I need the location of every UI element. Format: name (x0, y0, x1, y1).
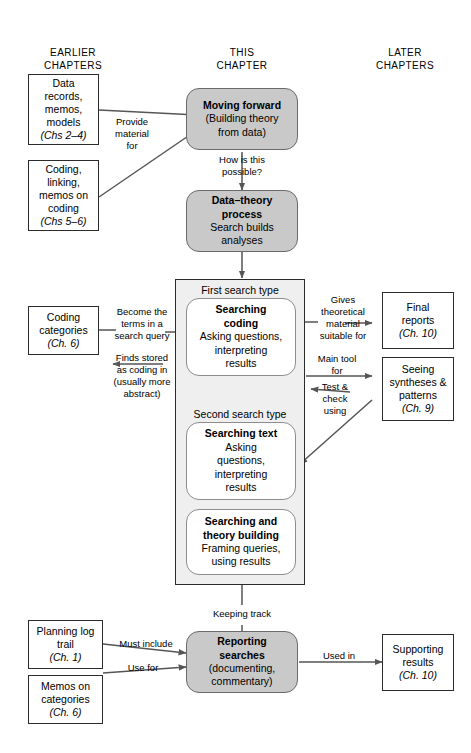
node-seeing-syntheses-chapter: (Ch. 9) (389, 402, 446, 415)
node-moving-forward-title: Moving forward (203, 99, 281, 112)
node-searching-theory-body: Framing queries, using results (202, 542, 281, 569)
column-header-earlier-chapters: EARLIER CHAPTERS (8, 46, 138, 72)
node-final-reports-chapter: (Ch. 10) (399, 327, 437, 340)
panel-label-second-search-type: Second search type (176, 408, 304, 421)
node-supporting-results[interactable]: Supporting results (Ch. 10) (382, 634, 454, 691)
node-memos-on-categories[interactable]: Memos on categories (Ch. 6) (28, 675, 103, 724)
node-planning-log-trail[interactable]: Planning log trail (Ch. 1) (28, 620, 103, 669)
node-planning-log-line-1: trail (37, 638, 95, 651)
node-coding-linking-line-0: Coding, (39, 163, 88, 176)
node-searching-text-body: Asking questions, interpreting results (215, 441, 268, 495)
node-final-reports[interactable]: Final reports (Ch. 10) (382, 292, 454, 349)
node-coding-categories-line-1: categories (39, 324, 87, 337)
node-searching-theory-building[interactable]: Searching and theory building Framing qu… (186, 509, 296, 575)
node-searching-theory-title: Searching and theory building (203, 515, 279, 542)
node-data-theory-title: Data–theory process (212, 194, 273, 221)
node-moving-forward[interactable]: Moving forward (Building theory from dat… (186, 88, 298, 150)
node-supporting-results-line-1: results (393, 656, 444, 669)
node-final-reports-line-0: Final (399, 301, 437, 314)
node-coding-linking-chapter: (Chs 5–6) (39, 215, 88, 228)
panel-label-first-search-type: First search type (176, 284, 304, 297)
node-coding-categories-chapter: (Ch. 6) (39, 337, 87, 350)
node-data-records-line-3: models (40, 116, 86, 129)
node-seeing-syntheses-line-1: syntheses & (389, 376, 446, 389)
node-coding-categories-line-0: Coding (39, 311, 87, 324)
edge-label-use-for: Use for (112, 662, 174, 674)
column-header-this-chapter: THIS CHAPTER (177, 46, 307, 72)
node-searching-text[interactable]: Searching text Asking questions, interpr… (186, 422, 296, 500)
node-memos-categories-line-0: Memos on (41, 680, 90, 693)
node-planning-log-chapter: (Ch. 1) (37, 651, 95, 664)
node-reporting-searches-body: (documenting, commentary) (209, 662, 276, 689)
edge-label-keeping-track: Keeping track (196, 608, 288, 620)
node-data-records-line-0: Data (40, 77, 86, 90)
node-planning-log-line-0: Planning log (37, 625, 95, 638)
edge-label-finds-stored: Finds stored as coding in (usually more … (106, 352, 178, 400)
node-coding-linking[interactable]: Coding, linking, memos on coding (Chs 5–… (28, 160, 99, 231)
edge-label-gives-theoretical-material: Gives theoretical material suitable for (308, 294, 378, 342)
column-header-later-chapters: LATER CHAPTERS (340, 46, 470, 72)
edge-label-must-include: Must include (110, 638, 182, 650)
edge-label-become-the-terms: Become the terms in a search query (106, 306, 178, 342)
node-data-theory-process[interactable]: Data–theory process Search builds analys… (186, 190, 298, 252)
node-data-records-chapter: (Chs 2–4) (40, 129, 86, 142)
node-searching-text-title: Searching text (205, 427, 277, 440)
edge-data-records-to-moving-forward (99, 110, 197, 115)
edge-label-used-in: Used in (308, 650, 370, 662)
node-data-records-line-2: memos, (40, 103, 86, 116)
node-data-records-line-1: records, (40, 90, 86, 103)
diagram-canvas: EARLIER CHAPTERS THIS CHAPTER LATER CHAP… (0, 0, 471, 753)
node-coding-linking-line-2: memos on (39, 189, 88, 202)
node-coding-linking-line-3: coding (39, 202, 88, 215)
node-final-reports-line-1: reports (399, 314, 437, 327)
node-data-theory-body: Search builds analyses (210, 221, 274, 248)
node-searching-coding-body: Asking questions, interpreting results (200, 330, 282, 370)
node-memos-categories-chapter: (Ch. 6) (41, 706, 90, 719)
edge-label-test-check-using: Test & check using (313, 381, 357, 417)
node-reporting-searches[interactable]: Reporting searches (documenting, comment… (186, 631, 298, 693)
node-seeing-syntheses-line-2: patterns (389, 389, 446, 402)
node-data-records[interactable]: Data records, memos, models (Chs 2–4) (28, 74, 99, 145)
edge-label-provide-material: Provide material for (103, 116, 161, 152)
edge-label-how-is-this-possible: How is this possible? (205, 154, 279, 178)
node-seeing-syntheses-line-0: Seeing (389, 363, 446, 376)
node-moving-forward-body: (Building theory from data) (206, 112, 279, 139)
node-supporting-results-chapter: (Ch. 10) (393, 669, 444, 682)
node-reporting-searches-title: Reporting searches (217, 635, 267, 662)
node-searching-coding[interactable]: Searching coding Asking questions, inter… (186, 298, 296, 376)
node-coding-categories[interactable]: Coding categories (Ch. 6) (28, 306, 99, 355)
node-seeing-syntheses-patterns[interactable]: Seeing syntheses & patterns (Ch. 9) (382, 357, 454, 421)
node-memos-categories-line-1: categories (41, 693, 90, 706)
node-searching-coding-title: Searching coding (216, 303, 267, 330)
node-supporting-results-line-0: Supporting (393, 643, 444, 656)
node-coding-linking-line-1: linking, (39, 176, 88, 189)
edge-label-main-tool-for: Main tool for (306, 353, 368, 377)
